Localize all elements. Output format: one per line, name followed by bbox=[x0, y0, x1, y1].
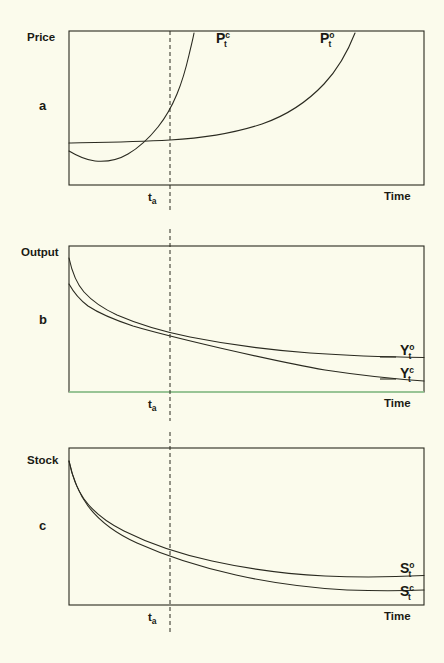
panel-c-tick-ta: ta bbox=[148, 612, 157, 624]
panel-a-curve-label-pc: Pct bbox=[216, 31, 227, 45]
figure-canvas bbox=[0, 0, 444, 663]
panel-c-curve-so bbox=[69, 461, 424, 577]
panel-b-tick-ta: ta bbox=[148, 399, 157, 411]
panel-c-y-axis-label: Stock bbox=[27, 455, 58, 467]
panel-a-frame bbox=[69, 31, 424, 185]
panel-b-curve-yo bbox=[69, 258, 424, 358]
panel-b-curve-label-yc: Yct bbox=[400, 366, 411, 380]
panel-b-curve-yc bbox=[69, 284, 424, 381]
panel-c-frame bbox=[69, 448, 424, 605]
panel-a-curve-po-sub: t bbox=[329, 39, 332, 49]
panel-a-y-axis-label: Price bbox=[27, 32, 55, 44]
panel-c-letter: c bbox=[39, 519, 46, 532]
panel-a-plot bbox=[69, 31, 424, 185]
panel-c-tick-sub: a bbox=[152, 616, 157, 626]
panel-c-x-axis-label: Time bbox=[384, 611, 411, 623]
panel-c-curve-label-so: Sot bbox=[400, 561, 411, 575]
panel-c-curve-sc-sub: t bbox=[408, 592, 411, 602]
panel-a-tick-ta: ta bbox=[148, 192, 157, 204]
panel-b-frame bbox=[69, 246, 424, 392]
panel-b-curve-yo-sub: t bbox=[409, 351, 412, 361]
panel-a-letter: a bbox=[39, 99, 46, 112]
panel-a-curve-label-po: Pot bbox=[320, 31, 331, 45]
panel-b-tick-sub: a bbox=[152, 403, 157, 413]
panel-b-y-axis-label: Output bbox=[21, 247, 59, 259]
panel-a-curve-po-base: P bbox=[320, 30, 329, 46]
panel-a-x-axis-label: Time bbox=[384, 191, 411, 203]
panel-a-tick-sub: a bbox=[152, 196, 157, 206]
panel-b-x-axis-label: Time bbox=[384, 398, 411, 410]
panel-c-plot bbox=[69, 448, 424, 605]
panel-c-curve-label-sc: Sct bbox=[400, 584, 411, 598]
panel-b-curve-yo-base: Y bbox=[400, 342, 409, 358]
panel-b-curve-yc-sub: t bbox=[408, 374, 411, 384]
curve-leader-lines bbox=[380, 357, 396, 379]
panel-a-curve-po bbox=[69, 33, 355, 143]
panel-b-plot bbox=[69, 246, 424, 392]
panel-c-curve-sc bbox=[69, 461, 424, 591]
figure-root: Price a ta Time Pct Pot Output b ta Time… bbox=[0, 0, 444, 663]
panel-b-curve-label-yo: Yot bbox=[400, 343, 411, 357]
panel-c-curve-so-sub: t bbox=[409, 569, 412, 579]
panel-b-letter: b bbox=[39, 313, 47, 326]
panel-c-curve-so-base: S bbox=[400, 560, 409, 576]
panel-a-curve-pc-sub: t bbox=[224, 39, 227, 49]
